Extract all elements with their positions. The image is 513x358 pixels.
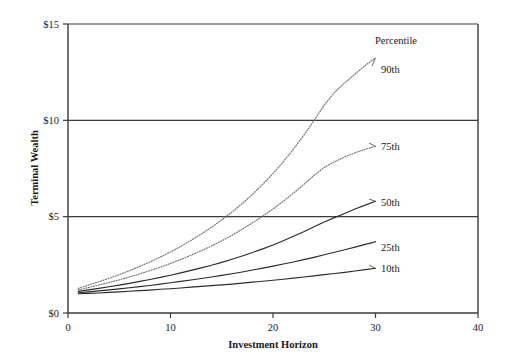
y-tick-label-0: $0	[49, 308, 60, 319]
y-tick-label-5: $5	[49, 211, 60, 222]
legend-title: Percentile	[375, 35, 417, 46]
terminal-wealth-line-chart: $0$5$10$15 010203040 90th75th50th25th10t…	[0, 0, 513, 358]
chart-figure: $0$5$10$15 010203040 90th75th50th25th10t…	[0, 0, 513, 358]
series-label-75th: 75th	[381, 141, 400, 152]
y-tick-label-10: $10	[43, 115, 59, 126]
x-tick-label-40: 40	[473, 322, 484, 333]
x-tick-label-10: 10	[165, 322, 176, 333]
x-tick-label-20: 20	[268, 322, 279, 333]
x-tick-label-0: 0	[65, 322, 70, 333]
x-axis-title: Investment Horizon	[228, 339, 318, 350]
series-label-90th: 90th	[381, 64, 400, 75]
series-label-10th: 10th	[381, 263, 400, 274]
x-tick-label-30: 30	[370, 322, 381, 333]
y-tick-label-15: $15	[43, 19, 59, 30]
series-label-50th: 50th	[381, 197, 400, 208]
chart-background	[0, 0, 513, 358]
series-label-25th: 25th	[381, 242, 400, 253]
y-axis-title: Terminal Wealth	[29, 130, 40, 206]
